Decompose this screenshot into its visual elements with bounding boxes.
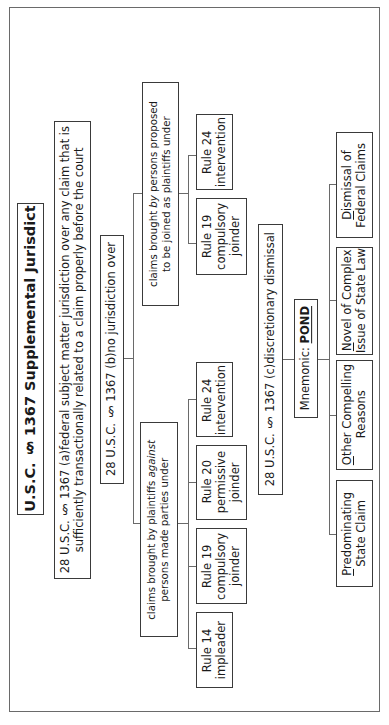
rule-label: Rule 19	[201, 533, 215, 600]
connector	[188, 155, 189, 244]
connector	[133, 193, 142, 194]
section-c-box: 28 U.S.C. § 1367 (c)discretionary dismis…	[258, 224, 283, 495]
rule-desc: joinder	[228, 451, 242, 513]
branch-by-line1a: claims brought	[148, 208, 159, 287]
section-c-text: 28 U.S.C. § 1367 (c)discretionary dismis…	[264, 232, 278, 486]
against-rule-20-box: Rule 20permissivejoinder	[196, 445, 247, 520]
connector	[179, 193, 188, 194]
rule-desc: compulsory	[215, 533, 229, 600]
pond-text: ismissal of	[340, 150, 354, 211]
section-a-text: 28 U.S.C. § 1367 (a)federal subject matt…	[59, 126, 87, 573]
connector	[188, 566, 196, 567]
connector	[133, 193, 134, 524]
pond-predominating-box: PredominatingState Claim	[336, 480, 373, 587]
branch-against-box: claims brought by plaintiffs against per…	[140, 422, 178, 637]
section-b-text: 28 U.S.C. § 1367 (b)no jurisdiction over	[105, 242, 119, 476]
connector	[283, 359, 294, 360]
branch-against-line1: claims brought by plaintiffs	[146, 477, 157, 619]
section-c-label: discretionary dismissal	[263, 232, 277, 364]
rule-label: Rule 19	[201, 203, 215, 270]
against-rule-14-box: Rule 14impleader	[196, 612, 233, 688]
branch-by-line2: to be joined as plaintiffs under	[161, 101, 174, 287]
pond-text: Issue of State Law	[355, 248, 369, 353]
section-a-box: 28 U.S.C. § 1367 (a)federal subject matt…	[54, 121, 91, 579]
branch-against-line2: persons made parties under	[159, 440, 172, 620]
branch-against-text: claims brought by plaintiffs against per…	[146, 440, 172, 620]
against-rule-24-box: Rule 24intervention	[196, 362, 233, 437]
connector	[188, 243, 196, 244]
connector	[318, 359, 329, 360]
pond-text: ovel of Complex	[340, 250, 354, 343]
connector	[188, 648, 196, 649]
pond-text: ther Compelling	[340, 364, 354, 456]
rule-label: Rule 14	[201, 621, 215, 679]
rule-label: Rule 24	[201, 365, 215, 435]
rule-desc: permissive	[215, 451, 229, 513]
title-box: 28 U.S.C. § 1367 Supplemental Jurisdicti…	[17, 203, 44, 515]
by-rule-19-box: Rule 19compulsoryjoinder	[196, 198, 247, 275]
rule-desc: impleader	[215, 621, 229, 679]
pond-novel-box: Novel of ComplexIssue of State Law	[336, 247, 373, 355]
branch-by-italic: by	[148, 195, 159, 208]
section-a-cite: 28 U.S.C. § 1367 (a)	[58, 450, 72, 573]
mnemonic-box: Mnemonic: POND	[294, 299, 318, 418]
rule-label: Rule 24	[201, 117, 215, 187]
section-a-line1: federal subject matter jurisdiction over…	[58, 126, 72, 450]
section-b-box: 28 U.S.C. § 1367 (b)no jurisdiction over	[100, 235, 124, 484]
section-a-line2: sufficiently transactionally related to …	[73, 126, 87, 573]
connector	[188, 399, 189, 649]
branch-against-italic: against	[146, 440, 157, 478]
branch-by-text: claims brought by persons proposed to be…	[148, 101, 174, 287]
rule-desc: intervention	[215, 365, 229, 435]
connector	[329, 534, 336, 535]
pond-other-box: Other CompellingReasons	[336, 360, 373, 470]
connector	[329, 184, 330, 535]
connector	[188, 155, 196, 156]
rule-desc: intervention	[215, 117, 229, 187]
pond-letter: N	[340, 343, 354, 352]
rule-desc: compulsory	[215, 203, 229, 270]
branch-by-box: claims brought by persons proposed to be…	[142, 82, 179, 306]
connector	[178, 523, 188, 524]
pond-letter: P	[340, 568, 354, 575]
pond-letter: O	[340, 457, 354, 466]
connector	[188, 482, 196, 483]
against-rule-19-box: Rule 19compulsoryjoinder	[196, 528, 247, 604]
title: 28 U.S.C. § 1367 Supplemental Jurisdicti…	[22, 203, 39, 515]
rule-desc: joinder	[228, 203, 242, 270]
connector	[329, 300, 336, 301]
mnemonic-word: POND	[298, 306, 312, 343]
pond-text: Reasons	[355, 364, 369, 465]
pond-letter: D	[340, 211, 354, 220]
pond-dismissal-box: Dismissal ofFederal Claims	[336, 132, 373, 238]
connector	[329, 415, 336, 416]
mnemonic-label: Mnemonic:	[298, 344, 312, 411]
by-rule-24-box: Rule 24intervention	[196, 114, 233, 190]
pond-text: Federal Claims	[355, 143, 369, 228]
connector	[188, 399, 196, 400]
branch-by-line1b: persons proposed	[148, 101, 159, 195]
pond-text: redominating	[340, 492, 354, 569]
section-b-cite: 28 U.S.C. § 1367 (b)	[104, 353, 118, 477]
section-c-cite: 28 U.S.C. § 1367 (c)	[263, 364, 277, 487]
connector	[329, 184, 336, 185]
section-b-label: no jurisdiction over	[104, 242, 118, 353]
rule-label: Rule 20	[201, 451, 215, 513]
rule-desc: joinder	[228, 533, 242, 600]
pond-text: State Claim	[355, 492, 369, 576]
